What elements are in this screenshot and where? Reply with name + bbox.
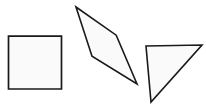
shapes-drawing — [0, 0, 206, 108]
square-shape[interactable] — [9, 36, 62, 89]
shapes-canvas — [0, 0, 206, 108]
